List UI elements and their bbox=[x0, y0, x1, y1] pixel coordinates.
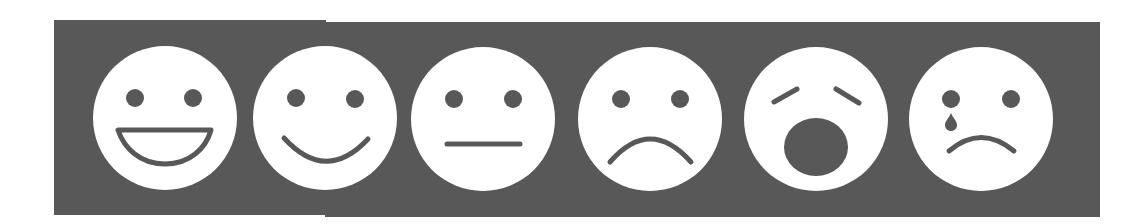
right-eye bbox=[504, 90, 522, 108]
grinning-face-icon[interactable]: Very happy bbox=[93, 46, 237, 190]
smiling-face-icon[interactable]: Happy bbox=[253, 46, 397, 190]
left-eye bbox=[942, 90, 960, 108]
right-eye bbox=[1002, 90, 1020, 108]
neutral-face-icon[interactable]: Neutral bbox=[411, 47, 555, 191]
right-eye bbox=[346, 90, 364, 108]
anguished-face-icon[interactable]: Distressed bbox=[744, 47, 888, 191]
frowning-face-icon[interactable]: Sad bbox=[578, 47, 722, 191]
left-eye bbox=[287, 89, 305, 107]
left-eye bbox=[126, 89, 144, 107]
right-eye bbox=[184, 89, 202, 107]
crying-face-icon[interactable]: Crying bbox=[909, 47, 1053, 191]
open-mouth bbox=[784, 118, 848, 176]
left-eye bbox=[612, 90, 630, 108]
emotion-face-scale: Very happy Happy Neutral Sad Distressed bbox=[0, 0, 1147, 224]
right-eye bbox=[671, 90, 689, 108]
left-eye bbox=[445, 90, 463, 108]
